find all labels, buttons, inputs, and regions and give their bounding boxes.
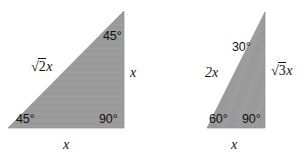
right-triangle-angle-bottom-right: 90° [242,113,261,126]
left-triangle-hypotenuse-label: √2x [31,60,52,74]
left-triangle-angle-top: 45° [103,30,122,43]
geometry-figure: √2x 45° x 45° 90° x 2x 30° √3x 60° 90° x [0,0,305,158]
left-triangle-hypotenuse-variable: x [46,59,52,74]
right-triangle-angle-bottom-left: 60° [209,113,228,126]
left-triangle-horizontal-leg-label: x [63,138,69,152]
right-triangle-vertical-leg-variable: x [286,63,292,78]
triangles-canvas [0,0,305,158]
right-triangle-vertical-leg-radicand: 3 [278,62,286,78]
left-triangle-angle-bottom-left: 45° [16,113,35,126]
right-triangle-horizontal-leg-label: x [231,138,237,152]
right-triangle-vertical-leg-label: √3x [271,64,292,78]
right-triangle-hypotenuse-label: 2x [205,66,218,80]
left-triangle-angle-bottom-right: 90° [99,113,118,126]
left-triangle-vertical-leg-label: x [130,66,136,80]
right-triangle-angle-top: 30° [232,41,251,54]
left-triangle-hypotenuse-radicand: 2 [38,58,46,74]
